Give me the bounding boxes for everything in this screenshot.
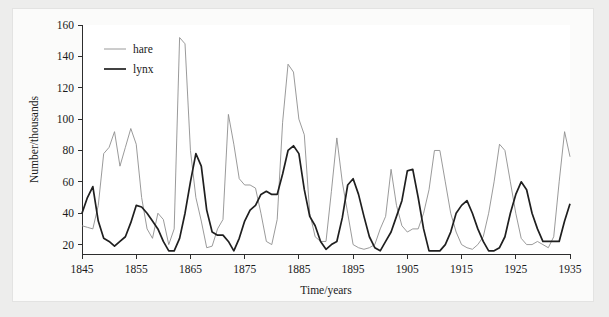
y-axis-tick-labels: 20406080100120140160: [57, 19, 75, 251]
x-axis-tick-label: 1935: [559, 263, 582, 275]
legend-label-lynx: lynx: [133, 63, 154, 76]
y-axis-title: Number/thousands: [28, 96, 40, 183]
y-axis-tick-label: 80: [63, 144, 75, 156]
x-axis-tick-label: 1925: [504, 263, 527, 275]
x-axis-tick-label: 1905: [396, 263, 419, 275]
line-chart: 20406080100120140160 1845185518651875188…: [0, 0, 609, 317]
y-axis-tick-label: 160: [57, 19, 75, 31]
y-axis-tick-label: 60: [63, 176, 75, 188]
x-axis-tick-labels: 1845185518651875188518951905191519251935: [71, 263, 582, 275]
x-axis-tick-label: 1885: [287, 263, 310, 275]
x-axis-title: Time/years: [300, 284, 352, 297]
x-axis-tick-label: 1895: [342, 263, 365, 275]
x-axis-tick-label: 1845: [71, 263, 94, 275]
chart-figure: 20406080100120140160 1845185518651875188…: [0, 0, 609, 317]
y-axis-ticks: [78, 25, 82, 245]
x-axis-tick-label: 1865: [179, 263, 202, 275]
y-axis-tick-label: 40: [63, 207, 75, 219]
y-axis-tick-label: 20: [63, 239, 75, 251]
x-axis-tick-label: 1915: [450, 263, 473, 275]
legend-label-hare: hare: [133, 43, 153, 55]
screenshot-page: 20406080100120140160 1845185518651875188…: [0, 0, 609, 317]
plot-area-background: [82, 25, 570, 254]
y-axis-tick-label: 140: [57, 50, 75, 62]
x-axis-tick-label: 1855: [125, 263, 148, 275]
y-axis-tick-label: 100: [57, 113, 75, 125]
y-axis-tick-label: 120: [57, 82, 75, 94]
x-axis-tick-label: 1875: [233, 263, 256, 275]
